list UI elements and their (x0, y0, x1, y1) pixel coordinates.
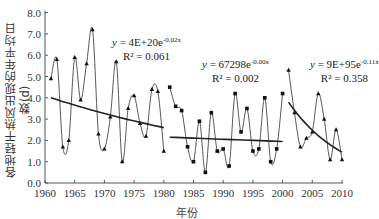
data-point-marker (180, 109, 184, 113)
x-tick-label: 1995 (242, 187, 265, 199)
data-point-marker (192, 160, 196, 164)
equation-text: y = 67298e (202, 58, 251, 70)
data-point-marker (126, 106, 130, 110)
r-squared: R² = 0.358 (310, 71, 379, 85)
data-point-marker (316, 91, 320, 95)
x-tick-label: 1985 (183, 187, 206, 199)
data-point-marker (251, 149, 255, 153)
data-point-marker (186, 145, 190, 149)
data-point-marker (210, 111, 214, 115)
series-line-2 (170, 87, 283, 172)
data-point-marker (102, 147, 106, 151)
chart-canvas: 0.01.02.03.04.05.06.07.08.01960196519701… (0, 0, 379, 219)
data-point-marker (162, 149, 166, 153)
data-point-marker (174, 105, 178, 109)
data-point-marker (204, 171, 208, 175)
trend-equation-3: y = 9E+95e-0.11x R² = 0.358 (310, 55, 379, 85)
x-tick-label: 1990 (212, 187, 235, 199)
data-point-marker (239, 130, 243, 134)
y-tick-label: 2.0 (27, 134, 41, 146)
data-point-marker (340, 157, 344, 161)
data-point-marker (96, 132, 100, 136)
data-point-marker (150, 87, 154, 91)
data-point-marker (144, 134, 148, 138)
data-point-marker (257, 147, 261, 151)
data-point-marker (227, 164, 231, 168)
data-point-marker (198, 119, 202, 123)
y-axis-label: 各地轻干热风出现的年平均日数(d) (4, 20, 18, 180)
data-point-marker (156, 89, 160, 93)
r-squared: R² = 0.002 (202, 71, 269, 85)
x-tick-label: 2005 (301, 187, 324, 199)
data-point-marker (84, 61, 88, 65)
x-tick-label: 2000 (272, 187, 295, 199)
data-point-marker (269, 160, 273, 164)
y-tick-label: 5.0 (27, 71, 41, 83)
y-tick-label: 8.0 (27, 7, 41, 19)
equation-text: = 4E+20e (120, 36, 163, 48)
x-tick-label: 1980 (153, 187, 176, 199)
data-point-marker (263, 96, 267, 100)
data-point-marker (73, 55, 77, 59)
data-point-marker (221, 147, 225, 151)
x-tick-label: 2010 (331, 187, 354, 199)
x-tick-label: 1965 (64, 187, 87, 199)
y-tick-label: 6.0 (27, 49, 41, 61)
x-tick-label: 1970 (93, 187, 116, 199)
equation-exponent: -0.00x (251, 58, 269, 66)
data-point-marker (298, 144, 302, 148)
data-point-marker (334, 127, 338, 131)
data-point-marker (67, 138, 71, 142)
y-tick-label: 7.0 (27, 28, 41, 40)
data-point-marker (304, 136, 308, 140)
data-point-marker (168, 85, 172, 89)
data-point-marker (328, 157, 332, 161)
data-point-marker (233, 92, 237, 96)
equation-exponent: -0.02x (163, 36, 181, 44)
equation-text: y = 9E+95e (310, 58, 361, 70)
y-tick-label: 1.0 (27, 156, 41, 168)
data-point-marker (281, 92, 285, 96)
data-point-marker (61, 144, 65, 148)
data-point-marker (245, 107, 249, 111)
trend-equation-1: y = 4E+20e-0.02x R² = 0.061 (112, 33, 181, 63)
r-squared: R² = 0.061 (112, 49, 181, 63)
y-tick-label: 3.0 (27, 113, 41, 125)
data-point-marker (322, 117, 326, 121)
data-point-marker (215, 149, 219, 153)
x-tick-label: 1975 (123, 187, 146, 199)
trend-equation-2: y = 67298e-0.00x R² = 0.002 (202, 55, 269, 85)
equation-exponent: -0.11x (361, 58, 379, 66)
trend-line-1 (51, 98, 164, 128)
x-tick-label: 1960 (34, 187, 57, 199)
data-point-marker (49, 76, 53, 80)
data-point-marker (275, 147, 279, 151)
x-axis-label: 年份 (176, 204, 198, 219)
data-point-marker (286, 68, 290, 72)
